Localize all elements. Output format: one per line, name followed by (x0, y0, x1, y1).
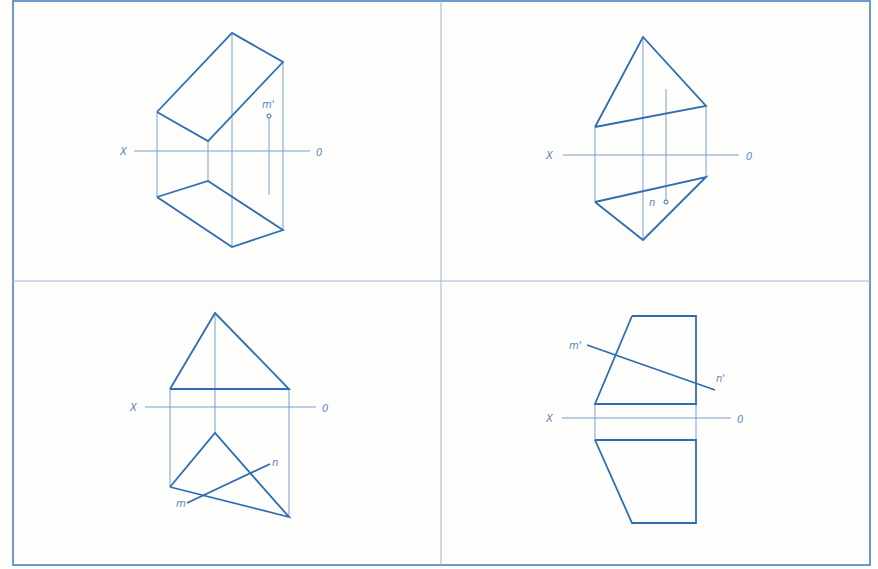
axis-label-o: 0 (316, 147, 322, 158)
axis-label-o: 0 (737, 414, 743, 425)
drawing-sheet: X0m' X0n X0nm X0m'n' (0, 0, 878, 569)
axis-label-x: X (129, 402, 138, 413)
axis-label-o: 0 (746, 151, 752, 162)
point-label: m' (262, 99, 275, 110)
axis-label-x: X (545, 413, 554, 424)
axis-label-x: X (119, 146, 128, 157)
point-label: n (649, 197, 655, 208)
line-end-label: m' (569, 340, 582, 351)
axis-label-x: X (545, 150, 554, 161)
point-marker (664, 200, 668, 204)
line-end-label: n' (716, 373, 725, 384)
point-marker (267, 114, 271, 118)
axis-label-o: 0 (322, 403, 328, 414)
line-end-label: m (176, 498, 186, 509)
line-end-label: n (272, 457, 278, 468)
sheet-background (0, 0, 878, 569)
